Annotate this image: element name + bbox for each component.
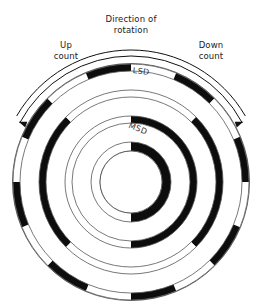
- lsd-track-label: LSD: [132, 66, 150, 77]
- encoder-disc-figure: Direction of rotation Up count Down coun…: [0, 0, 263, 306]
- up-count-line2: count: [54, 51, 79, 61]
- disc-hub: [100, 151, 162, 213]
- down-count-line2: count: [199, 51, 224, 61]
- lsd-label-text: LSD: [132, 66, 150, 77]
- up-count-line1: Up: [60, 40, 72, 50]
- down-count-label: Down count: [199, 40, 224, 61]
- encoder-disc-tracks: [13, 64, 250, 301]
- direction-title-line1: Direction of: [105, 14, 157, 24]
- direction-title-line2: rotation: [114, 25, 149, 35]
- encoder-disc-svg: Direction of rotation Up count Down coun…: [0, 0, 263, 306]
- down-count-line1: Down: [199, 40, 224, 50]
